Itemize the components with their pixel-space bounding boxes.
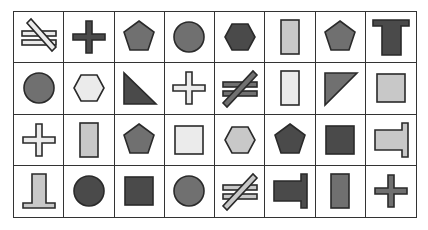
pentagon-icon	[115, 116, 163, 164]
not-equal-icon	[216, 64, 264, 112]
grid-cell-r4-c6	[265, 166, 315, 217]
circle-icon	[15, 64, 63, 112]
cross-icon	[165, 64, 213, 112]
grid-cell-r3-c5	[215, 115, 265, 166]
square-icon	[165, 116, 213, 164]
grid-cell-r4-c5	[215, 166, 265, 217]
square-icon	[367, 64, 415, 112]
grid-cell-r1-c7	[316, 12, 366, 63]
rectangle-tall-icon	[65, 116, 113, 164]
pentagon-icon	[266, 116, 314, 164]
grid-cell-r3-c8	[366, 115, 416, 166]
grid-cell-r1-c1	[14, 12, 64, 63]
grid-cell-r1-c2	[64, 12, 114, 63]
rectangle-tall-icon	[316, 167, 364, 215]
cross-icon	[15, 116, 63, 164]
square-icon	[115, 167, 163, 215]
grid-cell-r3-c7	[316, 115, 366, 166]
cross-icon	[367, 167, 415, 215]
grid-cell-r4-c3	[115, 166, 165, 217]
cross-icon	[65, 13, 113, 61]
rectangle-tall-icon	[266, 13, 314, 61]
grid-cell-r1-c8	[366, 12, 416, 63]
grid-cell-r1-c4	[165, 12, 215, 63]
shape-grid	[13, 11, 417, 218]
grid-cell-r4-c7	[316, 166, 366, 217]
grid-cell-r1-c6	[265, 12, 315, 63]
right-triangle-icon	[115, 64, 163, 112]
pentagon-icon	[115, 13, 163, 61]
not-equal-icon	[15, 13, 63, 61]
t-shape-icon	[367, 116, 415, 164]
grid-cell-r2-c2	[64, 63, 114, 114]
circle-icon	[65, 167, 113, 215]
hexagon-icon	[216, 13, 264, 61]
grid-cell-r4-c4	[165, 166, 215, 217]
rectangle-tall-icon	[266, 64, 314, 112]
grid-cell-r1-c3	[115, 12, 165, 63]
hexagon-icon	[216, 116, 264, 164]
square-icon	[316, 116, 364, 164]
not-equal-icon	[216, 167, 264, 215]
right-triangle-icon	[316, 64, 364, 112]
circle-icon	[165, 167, 213, 215]
circle-icon	[165, 13, 213, 61]
t-shape-icon	[266, 167, 314, 215]
grid-cell-r3-c2	[64, 115, 114, 166]
grid-cell-r2-c8	[366, 63, 416, 114]
grid-cell-r2-c5	[215, 63, 265, 114]
grid-cell-r4-c1	[14, 166, 64, 217]
grid-cell-r1-c5	[215, 12, 265, 63]
grid-cell-r2-c6	[265, 63, 315, 114]
t-shape-icon	[15, 167, 63, 215]
grid-cell-r2-c1	[14, 63, 64, 114]
pentagon-icon	[316, 13, 364, 61]
hexagon-icon	[65, 64, 113, 112]
grid-cell-r4-c2	[64, 166, 114, 217]
grid-cell-r4-c8	[366, 166, 416, 217]
grid-cell-r3-c1	[14, 115, 64, 166]
grid-cell-r3-c3	[115, 115, 165, 166]
grid-cell-r2-c3	[115, 63, 165, 114]
grid-cell-r3-c4	[165, 115, 215, 166]
grid-cell-r2-c7	[316, 63, 366, 114]
grid-cell-r2-c4	[165, 63, 215, 114]
t-shape-icon	[367, 13, 415, 61]
grid-cell-r3-c6	[265, 115, 315, 166]
